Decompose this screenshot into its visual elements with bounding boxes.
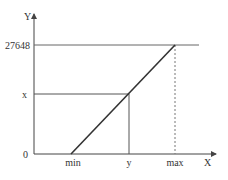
y-tick-mid: x [22, 89, 27, 100]
x-tick-min: min [65, 157, 81, 168]
x-tick-mid: y [127, 157, 132, 168]
scaling-line [71, 45, 175, 154]
y-tick-origin: 0 [23, 149, 28, 160]
x-tick-max: max [166, 157, 183, 168]
y-tick-top: 27648 [5, 40, 30, 51]
y-axis-label: Y [24, 11, 31, 22]
scaling-diagram: Y X 27648 x 0 min y max [0, 0, 228, 180]
x-axis-label: X [204, 157, 212, 168]
